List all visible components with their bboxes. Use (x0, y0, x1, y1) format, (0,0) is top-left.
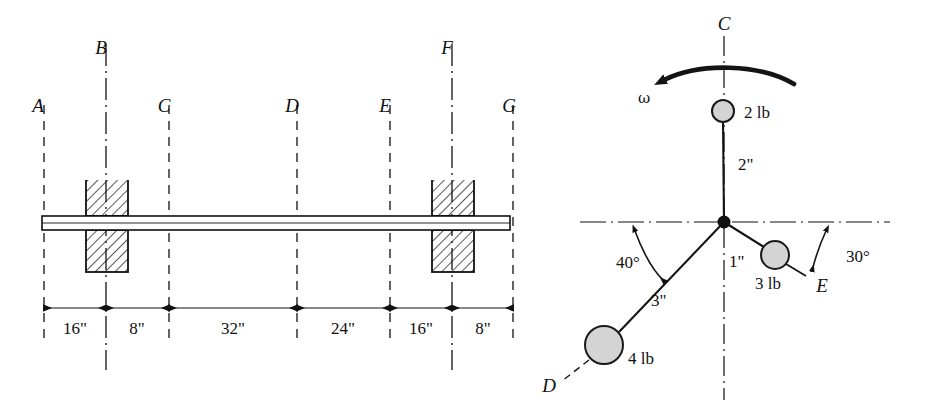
station-label-E: E (378, 95, 391, 116)
rotor-axis-label-C: C (718, 13, 731, 34)
rotor-point-label-E: E (815, 275, 828, 296)
station-label-F: F (440, 37, 453, 58)
bearing-F-upper-hatch (432, 180, 474, 216)
station-label-C: C (158, 95, 171, 116)
dimension-label-B-C: 8" (129, 319, 144, 338)
radial-arm-2lb (723, 120, 724, 222)
bearing-F-lower-hatch (432, 230, 474, 272)
mass-label-3lb: 3 lb (755, 274, 781, 293)
angle-label-30deg: 30° (846, 247, 870, 266)
engineering-figure: A B C D E F G (0, 0, 926, 416)
dimension-label-A-B: 16" (63, 319, 87, 338)
rotor-point-label-D: D (541, 375, 556, 396)
angle-label-40deg: 40° (616, 253, 640, 272)
mass-label-4lb: 4 lb (628, 349, 654, 368)
mass-label-2lb: 2 lb (744, 103, 770, 122)
station-label-G: G (502, 95, 516, 116)
station-label-A: A (30, 95, 44, 116)
radius-label-2in: 2" (738, 155, 753, 174)
mass-ball-3lb (761, 241, 789, 269)
rotor-hub-center (718, 216, 731, 229)
dimension-label-C-D: 32" (221, 319, 245, 338)
dimension-label-E-F: 16" (409, 319, 433, 338)
figure-canvas: A B C D E F G (0, 0, 926, 416)
station-label-D: D (284, 95, 299, 116)
bearing-B-lower-hatch (86, 230, 128, 272)
station-label-B: B (95, 37, 107, 58)
dimension-label-F-G: 8" (475, 319, 490, 338)
mass-ball-2lb (712, 100, 734, 122)
radius-label-3in: 3" (651, 291, 666, 310)
dimension-label-D-E: 24" (331, 319, 355, 338)
radius-label-1in: 1" (729, 252, 744, 271)
bearing-B-upper-hatch (86, 180, 128, 216)
omega-symbol-label: ω (638, 89, 650, 107)
shaft (42, 216, 510, 230)
mass-ball-4lb (585, 326, 623, 364)
